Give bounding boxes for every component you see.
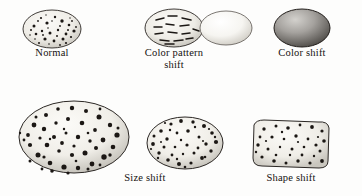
caption-normal: Normal [12,47,92,59]
egg-variation-figure: Normal [0,0,362,196]
caption-color-shift: Color shift [252,47,352,59]
caption-size-shift: Size shift [100,172,190,184]
caption-shape-shift: Shape shift [246,172,336,184]
caption-color-pattern-shift: Color pattern shift [124,47,224,70]
